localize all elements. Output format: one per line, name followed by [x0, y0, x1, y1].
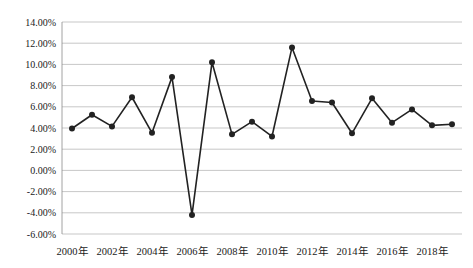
x-axis-tick-label: 2000年: [57, 245, 88, 257]
y-axis-tick-label: 2.00%: [30, 144, 56, 155]
y-axis-tick-label: 10.00%: [25, 59, 56, 70]
data-point-marker: [249, 119, 255, 125]
y-axis-tick-label: 4.00%: [30, 123, 56, 134]
y-axis-tick-label: 6.00%: [30, 101, 56, 112]
line-chart: 14.00%12.00%10.00%8.00%6.00%4.00%2.00%0.…: [0, 0, 473, 268]
data-point-marker: [289, 44, 295, 50]
data-point-marker: [209, 59, 215, 65]
data-point-marker: [189, 212, 195, 218]
data-point-marker: [349, 130, 355, 136]
series-line: [72, 47, 452, 214]
x-axis-tick-label: 2002年: [97, 245, 128, 257]
x-axis-tick-label: 2012年: [297, 245, 328, 257]
data-point-marker: [169, 74, 175, 80]
data-point-marker: [449, 121, 455, 127]
data-point-marker: [149, 130, 155, 136]
y-axis-tick-label: -2.00%: [27, 186, 56, 197]
y-axis-tick-label: -6.00%: [27, 229, 56, 240]
y-axis-tick-label: 12.00%: [25, 38, 56, 49]
data-point-marker: [409, 106, 415, 112]
x-axis-tick-label: 2004年: [137, 245, 168, 257]
data-point-marker: [309, 98, 315, 104]
x-axis-tick-label: 2018年: [417, 245, 448, 257]
data-point-marker: [389, 120, 395, 126]
data-point-marker: [129, 94, 135, 100]
x-axis-tick-label: 2016年: [377, 245, 408, 257]
data-point-marker: [109, 123, 115, 129]
y-axis-tick-label: 0.00%: [30, 165, 56, 176]
x-axis-tick-label: 2008年: [217, 245, 248, 257]
data-point-marker: [229, 131, 235, 137]
x-axis-tick-label: 2006年: [177, 245, 208, 257]
x-axis-tick-label: 2014年: [337, 245, 368, 257]
y-axis-tick-label: -4.00%: [27, 207, 56, 218]
chart-container: 14.00%12.00%10.00%8.00%6.00%4.00%2.00%0.…: [0, 0, 473, 268]
data-point-marker: [429, 122, 435, 128]
data-point-marker: [69, 126, 75, 132]
data-point-marker: [329, 100, 335, 106]
x-axis-tick-label: 2010年: [257, 245, 288, 257]
data-point-marker: [89, 112, 95, 118]
y-axis-tick-label: 14.00%: [25, 17, 56, 28]
data-point-marker: [369, 95, 375, 101]
data-point-marker: [269, 133, 275, 139]
y-axis-tick-label: 8.00%: [30, 80, 56, 91]
